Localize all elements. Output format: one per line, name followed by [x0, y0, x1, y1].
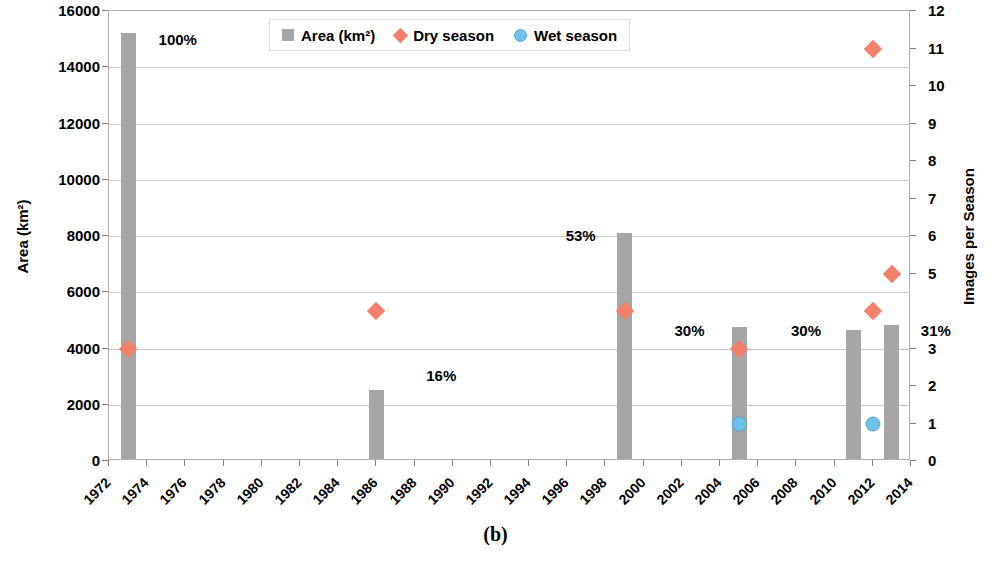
secondary-y-axis-tick-label: 11 [928, 39, 968, 56]
percentage-annotation: 16% [426, 367, 456, 384]
wet-season-marker [865, 416, 880, 431]
x-axis-tick-label: 2014 [870, 474, 915, 519]
x-axis-tick-label: 1980 [221, 474, 266, 519]
secondary-y-axis-tick-label: 9 [928, 114, 968, 131]
legend-item: Wet season [514, 27, 617, 44]
x-axis-tick-mark [108, 460, 109, 466]
x-axis-tick-mark [834, 460, 835, 466]
x-axis-tick-label: 1988 [374, 474, 419, 519]
gridline [109, 236, 909, 237]
secondary-y-axis-tick-label: 5 [928, 264, 968, 281]
percentage-annotation: 31% [921, 322, 951, 339]
x-axis-tick-mark [452, 460, 453, 466]
secondary-y-axis-tick-label: 0 [928, 452, 968, 469]
x-axis-tick-label: 1978 [183, 474, 228, 519]
x-axis-tick-label: 1994 [488, 474, 533, 519]
x-axis-tick-mark [604, 460, 605, 466]
secondary-y-axis-tick-mark [910, 348, 916, 349]
y-axis-tick-label: 16000 [8, 2, 100, 19]
gridline [109, 405, 909, 406]
plot-area: 100%16%53%30%30%31% Area (km²)Dry season… [108, 10, 910, 460]
x-axis-tick-mark [757, 460, 758, 466]
x-axis-tick-label: 1982 [259, 474, 304, 519]
secondary-y-axis-tick-label: 10 [928, 77, 968, 94]
x-axis-tick-label: 2004 [679, 474, 724, 519]
y-axis-tick-mark [102, 123, 108, 124]
x-axis-tick-label: 1990 [412, 474, 457, 519]
secondary-y-axis-tick-mark [910, 273, 916, 274]
gridline [109, 67, 909, 68]
x-axis-tick-label: 1996 [527, 474, 572, 519]
secondary-y-axis-tick-label: 2 [928, 377, 968, 394]
x-axis-tick-mark [566, 460, 567, 466]
secondary-y-axis-tick-mark [910, 235, 916, 236]
x-axis-tick-mark [414, 460, 415, 466]
y-axis-tick-mark [102, 291, 108, 292]
secondary-y-axis-tick-mark [910, 123, 916, 124]
secondary-y-axis-tick-mark [910, 198, 916, 199]
secondary-y-axis-tick-label: 1 [928, 414, 968, 431]
x-axis-tick-label: 2010 [794, 474, 839, 519]
x-axis-tick-mark [719, 460, 720, 466]
gridline [109, 124, 909, 125]
secondary-y-axis-tick-label: 6 [928, 227, 968, 244]
x-axis-tick-label: 1972 [68, 474, 113, 519]
x-axis-tick-label: 1998 [565, 474, 610, 519]
dry-season-marker [367, 302, 385, 320]
bar [884, 325, 899, 459]
secondary-y-axis-tick-mark [910, 160, 916, 161]
bar [846, 330, 861, 459]
dry-season-marker [883, 264, 901, 282]
bar [369, 390, 384, 459]
wet-season-marker [732, 416, 747, 431]
legend-item: Dry season [395, 27, 494, 44]
legend-label: Area (km²) [301, 27, 375, 44]
percentage-annotation: 30% [674, 322, 704, 339]
y-axis-tick-label: 8000 [8, 227, 100, 244]
percentage-annotation: 100% [159, 31, 197, 48]
x-axis-tick-label: 2002 [641, 474, 686, 519]
x-axis-tick-label: 2008 [756, 474, 801, 519]
y-axis-tick-label: 0 [8, 452, 100, 469]
y-axis-tick-mark [102, 179, 108, 180]
x-axis-tick-mark [528, 460, 529, 466]
secondary-y-axis-tick-mark [910, 48, 916, 49]
secondary-y-axis-tick-label: 7 [928, 189, 968, 206]
secondary-y-axis-tick-mark [910, 85, 916, 86]
x-axis-tick-mark [490, 460, 491, 466]
x-axis-tick-mark [681, 460, 682, 466]
percentage-annotation: 53% [566, 226, 596, 243]
x-axis-tick-label: 1976 [145, 474, 190, 519]
secondary-y-axis-tick-mark [910, 10, 916, 11]
x-axis-tick-mark [146, 460, 147, 466]
secondary-y-axis-tick-label: 3 [928, 339, 968, 356]
x-axis-tick-mark [223, 460, 224, 466]
y-axis-tick-label: 2000 [8, 395, 100, 412]
x-axis-tick-label: 1974 [107, 474, 152, 519]
secondary-y-axis-tick-mark [910, 423, 916, 424]
y-axis-tick-label: 14000 [8, 58, 100, 75]
x-axis-tick-mark [184, 460, 185, 466]
x-axis-tick-label: 2012 [832, 474, 877, 519]
y-axis-tick-label: 10000 [8, 170, 100, 187]
secondary-y-axis-tick-mark [910, 385, 916, 386]
legend-label: Wet season [534, 27, 617, 44]
secondary-y-axis-tick-label: 12 [928, 2, 968, 19]
gridline [109, 349, 909, 350]
legend-item: Area (km²) [282, 27, 375, 44]
dry-season-marker [864, 39, 882, 57]
x-axis-tick-label: 2000 [603, 474, 648, 519]
bar [617, 233, 632, 459]
x-axis-tick-label: 2006 [718, 474, 763, 519]
y-axis-tick-label: 4000 [8, 339, 100, 356]
chart-legend: Area (km²)Dry seasonWet season [269, 19, 630, 51]
figure-panel-b: Area (km²) Images per Season 100%16%53%3… [0, 0, 991, 563]
x-axis-tick-mark [795, 460, 796, 466]
x-axis-tick-label: 1992 [450, 474, 495, 519]
y-axis-tick-label: 6000 [8, 283, 100, 300]
figure-caption: (b) [0, 523, 991, 546]
x-axis-tick-mark [375, 460, 376, 466]
legend-label: Dry season [413, 27, 494, 44]
legend-diamond-icon [393, 27, 409, 43]
x-axis-tick-mark [872, 460, 873, 466]
